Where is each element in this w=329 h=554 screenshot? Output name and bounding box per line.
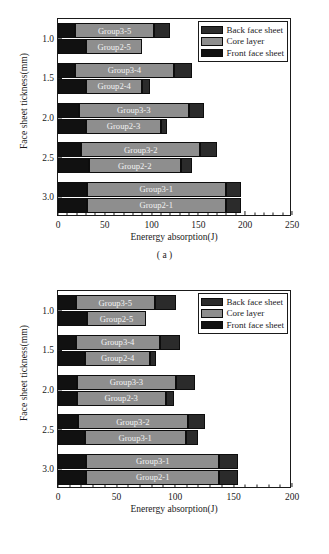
x-axis-title-a: Enerergy absorption(J) (57, 232, 291, 242)
bar-label: Group2-5 (97, 42, 130, 52)
bar-segment-front (58, 182, 87, 197)
stacked-bar: Group3-1 (58, 182, 241, 197)
stacked-bar: Group3-3 (58, 103, 204, 118)
legend-label-back: Back face sheet (227, 25, 283, 35)
bar-label: Group3-1 (118, 433, 151, 443)
bar-label: Group3-2 (116, 417, 149, 427)
x-minor-tick (114, 213, 115, 216)
x-tick-label: 150 (191, 220, 205, 230)
bar-label: Group3-3 (110, 377, 143, 387)
bar-label: Group3-5 (98, 26, 131, 36)
bar-label: Group2-5 (100, 314, 133, 324)
x-tick-mark (291, 211, 292, 215)
chart-a: Face sheet tickness(mm) Back face sheet … (0, 0, 329, 252)
x-minor-tick (189, 213, 190, 216)
bar-segment-front (58, 414, 78, 429)
chart-b: Face sheet tickness(mm) Back face sheet … (0, 272, 329, 524)
x-tick-label: 100 (168, 492, 182, 502)
x-minor-tick (93, 485, 94, 488)
bar-segment-core: Group2-3 (86, 119, 161, 134)
bar-segment-core: Group2-4 (86, 79, 142, 94)
y-tick-label: 2.5 (42, 153, 54, 163)
bar-segment-front (58, 103, 79, 118)
y-tick-label: 3.0 (42, 192, 54, 202)
x-minor-tick (67, 213, 68, 216)
bar-label: Group3-4 (101, 337, 134, 347)
bar-segment-front (58, 470, 86, 485)
legend-swatch-core-icon (201, 37, 223, 46)
legend-item-back-face-sheet: Back face sheet (201, 296, 284, 308)
y-tick-label: 1.0 (42, 34, 54, 44)
bar-segment-core: Group2-2 (89, 158, 181, 173)
bar-segment-core: Group3-4 (76, 335, 160, 350)
y-tick-label: 2.0 (42, 113, 54, 123)
x-minor-tick (132, 213, 133, 216)
x-tick-label: 50 (112, 492, 122, 502)
bar-segment-front (58, 311, 87, 326)
x-minor-tick (207, 213, 208, 216)
legend-label-back: Back face sheet (227, 297, 283, 307)
x-minor-tick (170, 213, 171, 216)
stacked-bar: Group3-2 (58, 414, 205, 429)
bar-segment-front (58, 79, 86, 94)
y-tick-label: 2.0 (42, 385, 54, 395)
x-minor-tick (254, 213, 255, 216)
bar-segment-front (58, 158, 89, 173)
y-tick-label: 1.5 (42, 73, 54, 83)
bar-segment-back (219, 470, 238, 485)
bar-segment-front (58, 391, 77, 406)
bar-segment-core: Group3-1 (87, 182, 226, 197)
legend-label-core: Core layer (227, 36, 265, 46)
bar-segment-core: Group3-4 (75, 63, 174, 78)
x-minor-tick (163, 485, 164, 488)
stacked-bar: Group3-4 (58, 63, 192, 78)
legend-swatch-front-icon (201, 49, 223, 58)
bar-segment-back (142, 79, 149, 94)
bar-segment-core: Group3-1 (86, 454, 219, 469)
x-minor-tick (69, 485, 70, 488)
bar-segment-back (200, 142, 217, 157)
x-minor-tick (282, 213, 283, 216)
x-tick-label: 50 (100, 220, 110, 230)
bar-segment-front (58, 23, 75, 38)
stacked-bar: Group3-3 (58, 375, 195, 390)
x-minor-tick (139, 485, 140, 488)
bar-segment-back (154, 23, 170, 38)
bar-segment-back (150, 351, 156, 366)
bar-segment-core: Group2-4 (85, 351, 151, 366)
figure-panel-a: Face sheet tickness(mm) Back face sheet … (0, 0, 329, 278)
bar-segment-core: Group3-3 (77, 375, 176, 390)
bar-segment-back (160, 335, 180, 350)
stacked-bar: Group2-4 (58, 79, 150, 94)
x-tick-label: 100 (144, 220, 158, 230)
x-minor-tick (221, 485, 222, 488)
x-minor-tick (76, 213, 77, 216)
legend-label-core: Core layer (227, 308, 265, 318)
bar-segment-back (189, 103, 204, 118)
bar-segment-back (174, 63, 192, 78)
x-tick-label: 0 (56, 220, 61, 230)
bar-label: Group2-3 (107, 121, 140, 131)
bar-segment-back (219, 454, 238, 469)
bar-segment-front (58, 198, 87, 213)
bar-label: Group3-3 (117, 105, 150, 115)
bar-segment-front (58, 63, 75, 78)
x-minor-tick (263, 213, 264, 216)
stacked-bar: Group2-3 (58, 119, 167, 134)
legend-label-front: Front face sheet (227, 48, 284, 58)
y-tick-label: 1.5 (42, 345, 54, 355)
x-minor-tick (160, 213, 161, 216)
legend-item-core-layer: Core layer (201, 36, 284, 48)
bar-label: Group3-1 (140, 184, 173, 194)
bar-segment-back (188, 414, 206, 429)
legend-swatch-back-icon (201, 298, 223, 307)
y-axis-title-a: Face sheet tickness(mm) (19, 11, 29, 191)
bar-segment-core: Group3-2 (81, 142, 200, 157)
x-minor-tick (198, 485, 199, 488)
y-tick-label: 3.0 (42, 464, 54, 474)
bar-segment-back (226, 182, 241, 197)
bar-segment-back (161, 119, 167, 134)
stacked-bar: Group2-5 (58, 39, 142, 54)
x-minor-tick (245, 485, 246, 488)
legend-b: Back face sheet Core layer Front face sh… (198, 293, 288, 334)
